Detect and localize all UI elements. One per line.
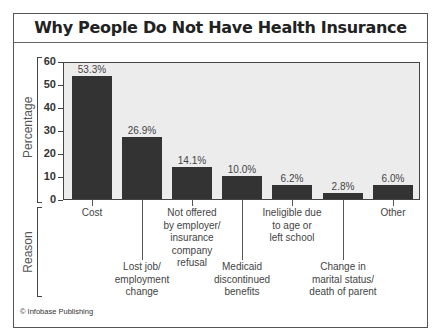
bar-value-label: 53.3%	[62, 64, 122, 75]
x-axis-bracket	[37, 207, 42, 297]
y-tick-label: 40	[38, 101, 56, 113]
y-tick-mark	[58, 200, 63, 201]
bar-0	[72, 76, 112, 199]
category-leader-line	[292, 200, 293, 206]
category-label: Other	[348, 207, 438, 220]
bar-2	[172, 167, 212, 199]
y-tick-label: 20	[38, 147, 56, 159]
bar-value-label: 26.9%	[112, 125, 172, 136]
category-leader-line	[393, 200, 394, 206]
y-tick-label: 50	[38, 78, 56, 90]
copyright-notice: © Infobase Publishing	[20, 307, 93, 316]
bar-5	[323, 193, 363, 199]
x-axis-label: Reason	[21, 222, 35, 282]
y-tick-label: 10	[38, 170, 56, 182]
category-leader-line	[343, 200, 344, 260]
category-label: Medicaid discontinued benefits	[197, 261, 287, 299]
title-band: Why People Do Not Have Health Insurance	[14, 14, 427, 43]
bar-6	[373, 185, 413, 199]
chart-title: Why People Do Not Have Health Insurance	[14, 18, 427, 37]
category-leader-line	[142, 200, 143, 260]
category-leader-line	[92, 200, 93, 206]
bar-1	[122, 137, 162, 199]
bar-3	[222, 176, 262, 199]
y-axis-label: Percentage	[21, 98, 35, 158]
category-leader-line	[192, 200, 193, 206]
category-label: Ineligible due to age or left school	[247, 207, 337, 245]
category-label: Cost	[47, 207, 137, 220]
y-tick-label: 0	[38, 193, 56, 205]
category-leader-line	[242, 200, 243, 260]
y-tick-label: 60	[38, 55, 56, 67]
bar-4	[272, 185, 312, 199]
bar-value-label: 6.0%	[363, 173, 423, 184]
category-label: Change in marital status/ death of paren…	[298, 261, 388, 299]
y-tick-label: 30	[38, 124, 56, 136]
